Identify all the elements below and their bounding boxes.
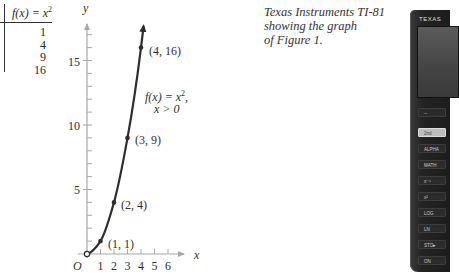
caption-line: Texas Instruments TI-81 xyxy=(264,5,385,19)
caption-line: showing the graph xyxy=(264,19,385,33)
y-axis-label: y xyxy=(82,1,89,15)
calculator-brand: TEXAS xyxy=(419,16,441,22)
point-1-1 xyxy=(98,239,103,244)
point-label: (1, 1) xyxy=(108,237,134,251)
point-label: (4, 16) xyxy=(149,44,181,58)
calculator-key-2nd: 2nd xyxy=(418,128,446,137)
figure-caption: Texas Instruments TI-81 showing the grap… xyxy=(264,5,385,47)
caption-line: of Figure 1. xyxy=(264,33,385,47)
calculator-key-alpha: ALPHA xyxy=(418,144,446,153)
x-tick-label: 5 xyxy=(152,259,158,273)
calculator-screen xyxy=(417,26,459,98)
point-4-16 xyxy=(139,45,144,50)
origin-open-point xyxy=(84,251,89,256)
x-axis-label: x xyxy=(193,248,200,262)
calculator-key-inverse: x⁻¹ xyxy=(418,176,446,185)
x-tick-label: 4 xyxy=(138,259,144,273)
calculator-key-ln: LN xyxy=(418,224,446,233)
origin-label: O xyxy=(73,259,82,273)
calculator-key-math: MATH xyxy=(418,160,446,169)
x-tick-label: 2 xyxy=(111,259,117,273)
calculator-image: TEXAS -- 2nd ALPHA MATH x⁻¹ x² LOG LN ST… xyxy=(410,10,450,272)
y-tick-label: 5 xyxy=(74,183,80,197)
y-tick-label: 15 xyxy=(68,55,80,69)
y-tick-label: 10 xyxy=(68,119,80,133)
calculator-key: -- xyxy=(418,108,446,117)
y-axis-ticks xyxy=(87,35,92,241)
calculator-key-on: ON xyxy=(418,256,446,265)
x-tick-label: 6 xyxy=(165,259,171,273)
point-label: (3, 9) xyxy=(135,133,161,147)
point-label: (2, 4) xyxy=(121,198,147,212)
point-3-9 xyxy=(125,136,130,141)
calculator-key-log: LOG xyxy=(418,208,446,217)
x-tick-label: 1 xyxy=(98,259,104,273)
point-2-4 xyxy=(112,200,117,205)
x-tick-label: 3 xyxy=(125,259,131,273)
calculator-key-square: x² xyxy=(418,192,446,201)
calculator-key-sto: STO▸ xyxy=(418,240,446,249)
function-annotation-line2: x > 0 xyxy=(153,102,179,116)
